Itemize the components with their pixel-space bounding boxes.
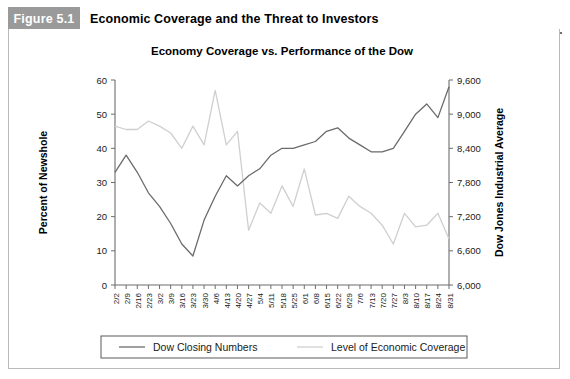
x-tick-label: 8/17 xyxy=(423,292,432,308)
x-tick-label: 4/13 xyxy=(223,292,232,308)
y-tick-label-left: 20 xyxy=(96,211,107,222)
x-tick-label: 3/2 xyxy=(156,292,165,304)
figure-title: Economic Coverage and the Threat to Inve… xyxy=(90,7,379,31)
x-tick-label: 5/4 xyxy=(256,292,265,304)
y-tick-label-left: 30 xyxy=(96,177,107,188)
x-tick-label: 6/15 xyxy=(323,292,332,308)
y-tick-label-left: 50 xyxy=(96,109,107,120)
y-tick-label-right: 8,400 xyxy=(457,143,481,154)
y-tick-label-right: 7,200 xyxy=(457,211,481,222)
y-axis-title-left: Percent of Newshole xyxy=(37,131,49,234)
x-tick-label: 7/6 xyxy=(356,292,365,304)
x-tick-label: 3/9 xyxy=(167,292,176,304)
y-tick-label-right: 7,800 xyxy=(457,177,481,188)
x-tick-label: 2/9 xyxy=(123,292,132,304)
x-tick-label: 5/11 xyxy=(267,292,276,308)
chart-title: Economy Coverage vs. Performance of the … xyxy=(151,45,413,57)
x-tick-label: 2/16 xyxy=(134,292,143,308)
x-tick-label: 3/30 xyxy=(201,292,210,308)
chart-canvas: Economy Coverage vs. Performance of the … xyxy=(9,29,561,369)
figure-panel: Economy Coverage vs. Performance of the … xyxy=(8,29,560,369)
x-tick-label: 2/23 xyxy=(145,292,154,308)
y-tick-label-right: 6,600 xyxy=(457,245,481,256)
x-tick-label: 6/22 xyxy=(334,292,343,308)
y-axis-title-right: Dow Jones Industrial Average xyxy=(493,108,505,257)
x-tick-label: 8/3 xyxy=(401,292,410,304)
x-tick-label: 7/13 xyxy=(368,292,377,308)
x-tick-label: 5/25 xyxy=(290,292,299,308)
x-tick-label: 8/31 xyxy=(446,292,455,308)
y-tick-label-left: 60 xyxy=(96,75,107,86)
y-tick-label-left: 0 xyxy=(102,280,107,291)
figure-container: Figure 5.1 Economic Coverage and the Thr… xyxy=(0,0,570,379)
line-chart: Economy Coverage vs. Performance of the … xyxy=(9,29,561,369)
x-tick-label: 7/27 xyxy=(390,292,399,308)
figure-header: Figure 5.1 Economic Coverage and the Thr… xyxy=(8,7,562,31)
y-tick-label-right: 9,600 xyxy=(457,75,481,86)
x-tick-label: 4/6 xyxy=(212,292,221,304)
y-tick-label-right: 6,000 xyxy=(457,280,481,291)
y-tick-label-right: 9,000 xyxy=(457,109,481,120)
x-tick-label: 5/18 xyxy=(279,292,288,308)
series-line-dow xyxy=(115,87,449,256)
x-tick-label: 3/16 xyxy=(178,292,187,308)
x-tick-label: 3/23 xyxy=(189,292,198,308)
x-tick-label: 6/8 xyxy=(312,292,321,304)
x-tick-label: 8/10 xyxy=(412,292,421,308)
x-tick-label: 4/20 xyxy=(234,292,243,308)
x-tick-label: 6/29 xyxy=(345,292,354,308)
legend-label-dow: Dow Closing Numbers xyxy=(153,341,257,353)
x-tick-label: 2/2 xyxy=(112,292,121,304)
y-tick-label-left: 10 xyxy=(96,245,107,256)
x-tick-label: 4/27 xyxy=(245,292,254,308)
x-tick-label: 6/1 xyxy=(301,292,310,304)
x-tick-label: 8/24 xyxy=(434,292,443,308)
series-line-coverage xyxy=(115,90,449,244)
figure-number-badge: Figure 5.1 xyxy=(8,7,80,31)
x-tick-label: 7/20 xyxy=(379,292,388,308)
legend-label-coverage: Level of Economic Coverage xyxy=(331,341,465,353)
y-tick-label-left: 40 xyxy=(96,143,107,154)
